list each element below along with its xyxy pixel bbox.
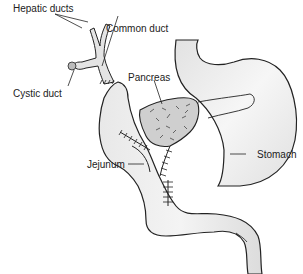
label-stomach: Stomach [257, 150, 296, 160]
pancreaticoduodenectomy-diagram: Hepatic ducts Common duct Cystic duct Pa… [0, 0, 303, 274]
label-common-duct: Common duct [106, 24, 168, 34]
label-pancreas: Pancreas [128, 73, 170, 83]
label-hepatic-ducts: Hepatic ducts [13, 4, 74, 14]
label-cystic-duct: Cystic duct [13, 89, 62, 99]
label-jejunum: Jejunum [87, 160, 125, 170]
anatomy-illustration [0, 0, 303, 274]
